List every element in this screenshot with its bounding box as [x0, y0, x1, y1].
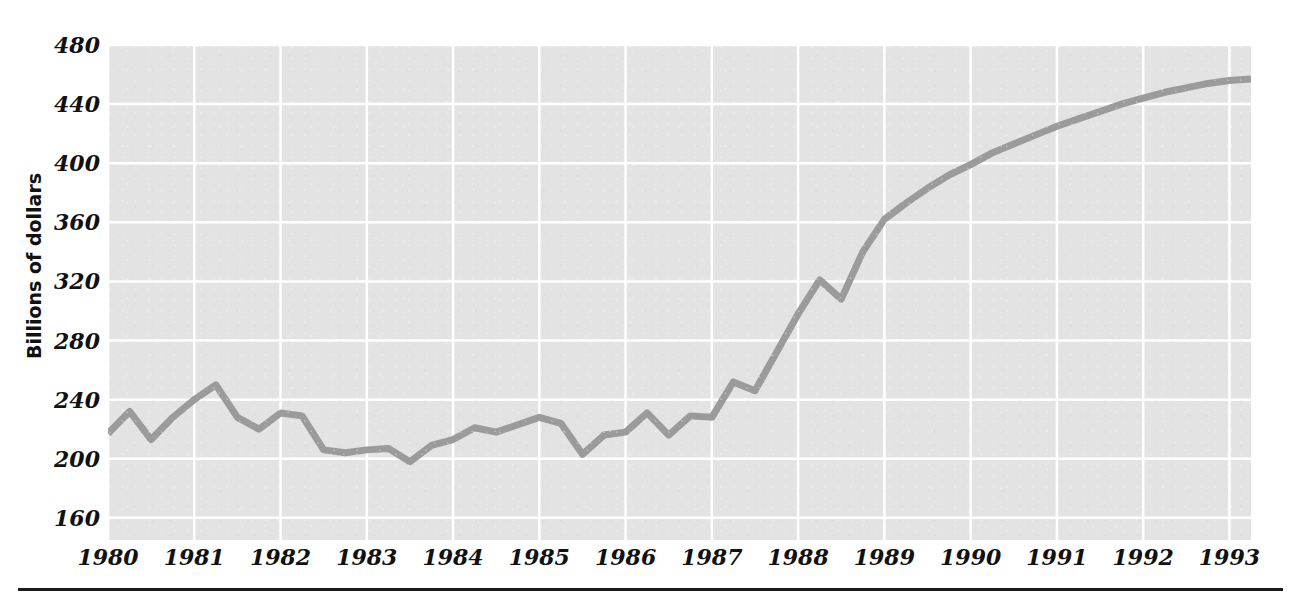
y-tick-label: 320 — [8, 270, 100, 292]
chart-figure: Billions of dollars 48044040036032028024… — [0, 0, 1301, 615]
y-tick-label: 160 — [8, 507, 100, 529]
y-tick-label: 440 — [8, 93, 100, 115]
y-tick-label: 240 — [8, 389, 100, 411]
vertical-gridlines — [108, 45, 1229, 540]
x-axis-tick-labels: 1980198119821983198419851986198719881989… — [0, 546, 1301, 580]
y-tick-label: 400 — [8, 152, 100, 174]
y-tick-label: 480 — [8, 34, 100, 56]
x-tick-label: 1993 — [1169, 546, 1289, 568]
y-tick-label: 360 — [8, 211, 100, 233]
y-tick-label: 200 — [8, 448, 100, 470]
line-chart-svg — [108, 45, 1251, 540]
y-axis-tick-labels: 480440400360320280240200160 — [0, 0, 100, 615]
y-tick-label: 280 — [8, 330, 100, 352]
plot-area — [108, 45, 1251, 540]
bottom-rule — [18, 588, 1283, 591]
